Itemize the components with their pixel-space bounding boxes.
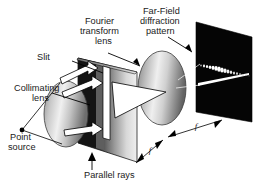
label-collimating-lens-line2: lens: [32, 93, 49, 103]
label-point-source-line1: Point: [10, 132, 31, 142]
beam-slit-band: [103, 66, 110, 140]
label-far-field-line2: diffraction: [140, 16, 180, 26]
label-parallel-rays: Parallel rays: [84, 170, 135, 180]
label-slit: Slit: [37, 52, 50, 62]
label-fourier-lens-line3: lens: [95, 36, 112, 46]
label-fourier-lens-line2: transform: [80, 26, 119, 36]
label-far-field-line1: Far-Field: [143, 6, 180, 16]
label-collimating-lens-line1: Collimating: [14, 83, 59, 93]
label-fourier-lens-line1: Fourier: [85, 16, 114, 26]
optics-diagram-figure: Slit Collimating lens Point source Paral…: [0, 0, 266, 186]
label-point-source-line2: source: [8, 142, 36, 152]
label-far-field-line3: pattern: [146, 26, 175, 36]
